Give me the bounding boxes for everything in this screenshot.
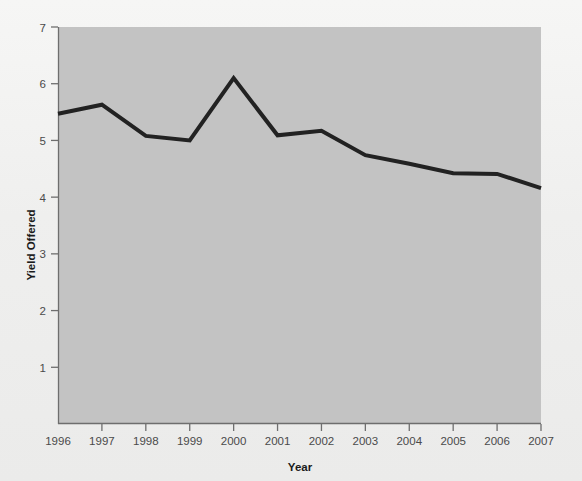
plot-area-background xyxy=(58,27,541,424)
x-axis-tick-label: 2000 xyxy=(221,435,247,447)
x-axis-tick-label: 2005 xyxy=(440,435,466,447)
y-axis-tick-label: 5 xyxy=(40,135,46,147)
x-axis-ticks xyxy=(102,424,541,431)
y-axis-tick-label: 2 xyxy=(40,305,46,317)
x-axis-tick-label: 2002 xyxy=(309,435,335,447)
x-axis-tick-label: 1999 xyxy=(177,435,203,447)
y-axis-tick-label: 6 xyxy=(40,78,46,90)
y-axis-tick-label: 7 xyxy=(40,22,46,34)
x-axis-tick-label: 2006 xyxy=(484,435,510,447)
x-axis-tick-label: 2001 xyxy=(265,435,291,447)
x-axis-tick-label: 1998 xyxy=(133,435,159,447)
x-axis-tick-label: 1996 xyxy=(45,435,71,447)
x-axis-tick-label: 1997 xyxy=(89,435,115,447)
y-axis-tick-label: 4 xyxy=(40,192,47,204)
y-axis-tick-labels: 1234567 xyxy=(40,22,47,374)
x-axis-title: Year xyxy=(288,461,313,473)
y-axis-ticks xyxy=(51,27,58,367)
x-axis-tick-label: 2007 xyxy=(528,435,554,447)
x-axis-tick-label: 2004 xyxy=(396,435,422,447)
x-axis-tick-labels: 1996199719981999200020012002200320042005… xyxy=(45,435,554,447)
x-axis-tick-label: 2003 xyxy=(353,435,379,447)
y-axis-title: Yield Offered xyxy=(25,209,37,280)
chart-figure: 1234567 19961997199819992000200120022003… xyxy=(0,0,582,481)
y-axis-tick-label: 3 xyxy=(40,248,46,260)
y-axis-tick-label: 1 xyxy=(40,362,46,374)
line-chart: 1234567 19961997199819992000200120022003… xyxy=(0,0,582,481)
